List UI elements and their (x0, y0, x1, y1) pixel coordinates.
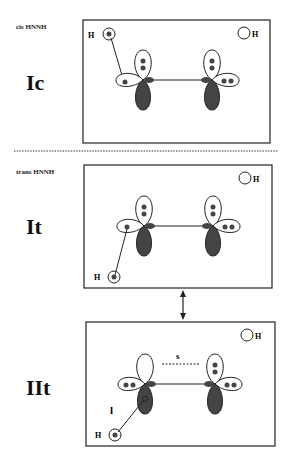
annotation-s: s (176, 351, 180, 361)
svg-text:H: H (94, 273, 101, 282)
proton-icon: H+ (238, 27, 261, 39)
orbital-diagram: H+ H H+ H H+ s (0, 0, 288, 470)
svg-text:H: H (88, 31, 95, 40)
svg-text:H: H (95, 431, 102, 440)
resonance-arrow-icon (180, 290, 186, 320)
svg-text:+: + (258, 28, 261, 33)
svg-text:+: + (259, 173, 262, 178)
svg-text:+: + (261, 330, 264, 335)
annotation-l: l (110, 404, 113, 416)
